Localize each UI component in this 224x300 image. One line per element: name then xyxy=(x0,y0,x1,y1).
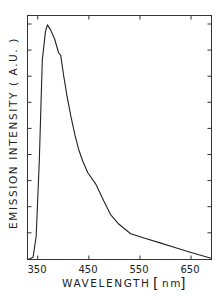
unit-bracket-open: [ xyxy=(153,275,158,291)
emission-spectrum-chart: 350 450 550 650 WAVELENGTH [ nm ] EMISSI… xyxy=(0,0,224,300)
x-axis-label: WAVELENGTH xyxy=(62,277,151,289)
x-tick-label: 350 xyxy=(27,264,46,275)
emission-curve xyxy=(28,25,211,260)
plot-frame xyxy=(28,16,212,260)
x-tick-label: 550 xyxy=(129,264,148,275)
y-axis-label: EMISSION INTENSITY ( A.U. ) xyxy=(7,37,19,229)
x-tick-label: 650 xyxy=(180,264,199,275)
x-tick-labels: 350 450 550 650 xyxy=(27,264,199,275)
unit-bracket-close: ] xyxy=(180,275,185,291)
x-tick-label: 450 xyxy=(78,264,97,275)
x-axis-title: WAVELENGTH [ nm ] xyxy=(62,275,185,291)
axis-ticks xyxy=(28,16,212,260)
